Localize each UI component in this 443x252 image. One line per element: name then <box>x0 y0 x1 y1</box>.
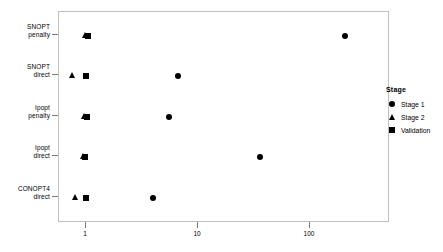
plot-area <box>58 11 389 222</box>
scatter-chart: SNOPT penalty SNOPT direct Ipopt penalty… <box>0 0 443 252</box>
data-point-validation[interactable] <box>85 33 91 39</box>
legend-item-label: Stage 2 <box>401 113 424 122</box>
legend-item-label: Validation <box>401 126 430 135</box>
y-axis-label-ipopt-penalty: Ipopt penalty <box>0 104 50 119</box>
data-point-validation[interactable] <box>82 154 88 160</box>
y-label-line1: Ipopt <box>0 144 50 152</box>
y-label-line1: SNOPT <box>0 63 50 71</box>
x-axis-tick <box>309 222 310 228</box>
data-point-stage1[interactable] <box>150 195 156 201</box>
y-label-line1: SNOPT <box>0 23 50 31</box>
legend: Stage Stage 1 Stage 2 Validation <box>386 86 443 137</box>
x-axis-tick <box>197 222 198 228</box>
y-axis-label-conopt4-direct: CONOPT4 direct <box>0 185 50 200</box>
x-axis-label-1: 1 <box>65 230 105 238</box>
y-axis-labels: SNOPT penalty SNOPT direct Ipopt penalty… <box>0 11 50 222</box>
circle-icon <box>386 98 398 110</box>
y-axis-label-snopt-penalty: SNOPT penalty <box>0 23 50 38</box>
y-label-line1: Ipopt <box>0 104 50 112</box>
x-axis-tick <box>85 222 86 228</box>
x-axis-label-10: 10 <box>177 230 217 238</box>
square-icon <box>386 124 398 136</box>
data-point-stage1[interactable] <box>166 114 172 120</box>
legend-item-label: Stage 1 <box>401 100 424 109</box>
y-label-line2: direct <box>0 152 50 160</box>
data-point-stage2[interactable] <box>72 194 78 200</box>
legend-title: Stage <box>386 86 443 93</box>
y-label-line2: direct <box>0 193 50 201</box>
data-point-stage1[interactable] <box>175 73 181 79</box>
data-point-stage1[interactable] <box>257 154 263 160</box>
y-label-line2: penalty <box>0 112 50 120</box>
data-point-validation[interactable] <box>84 114 90 120</box>
y-axis-label-ipopt-direct: Ipopt direct <box>0 144 50 159</box>
legend-item-validation[interactable]: Validation <box>386 124 443 136</box>
data-point-validation[interactable] <box>83 73 89 79</box>
legend-item-stage-1[interactable]: Stage 1 <box>386 98 443 110</box>
y-axis-label-snopt-direct: SNOPT direct <box>0 63 50 78</box>
x-axis-label-100: 100 <box>289 230 329 238</box>
triangle-icon <box>386 111 398 123</box>
y-label-line2: direct <box>0 71 50 79</box>
data-point-stage2[interactable] <box>69 72 75 78</box>
legend-item-stage-2[interactable]: Stage 2 <box>386 111 443 123</box>
y-label-line1: CONOPT4 <box>0 185 50 193</box>
data-point-validation[interactable] <box>83 195 89 201</box>
y-label-line2: penalty <box>0 31 50 39</box>
data-point-stage1[interactable] <box>342 33 348 39</box>
